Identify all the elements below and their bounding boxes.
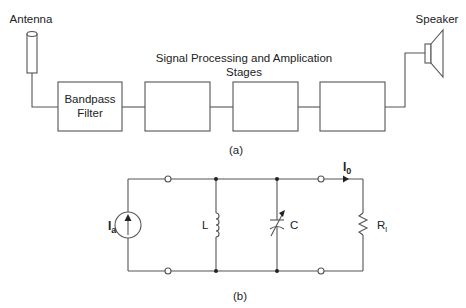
block-1-line2: Filter: [77, 107, 103, 119]
circuit-diagram: Ia L C Rl I0 (b): [108, 160, 387, 302]
antenna-label: Antenna: [10, 13, 53, 25]
terminal-top-right: [318, 176, 324, 182]
stage-block-2: [233, 82, 298, 131]
caption-a: (a): [229, 144, 243, 156]
inductor-label: L: [202, 219, 209, 231]
speaker-wire: [385, 53, 425, 107]
block-diagram: Antenna Bandpass Filter Signal Processin…: [10, 13, 459, 156]
diagram-canvas: Antenna Bandpass Filter Signal Processin…: [0, 0, 466, 308]
speaker-icon: [425, 30, 443, 77]
block-1-line1: Bandpass: [64, 93, 115, 105]
output-current-arrow-icon: [343, 176, 349, 183]
stage-block-3: [320, 82, 385, 131]
stages-label-line1: Signal Processing and Amplication: [156, 52, 332, 64]
terminal-bottom-left: [165, 268, 171, 274]
stages-label-line2: Stages: [226, 66, 262, 78]
caption-b: (b): [233, 290, 247, 302]
stage-block-1: [145, 82, 210, 131]
output-current-label: I0: [343, 160, 351, 176]
resistor-icon: [359, 213, 367, 235]
load-label: Rl: [377, 219, 387, 234]
speaker-label: Speaker: [416, 13, 459, 25]
terminal-top-left: [165, 176, 171, 182]
antenna-wire: [32, 73, 58, 107]
inductor-icon: [216, 213, 219, 237]
current-source-icon: [115, 212, 141, 238]
terminal-bottom-right: [318, 268, 324, 274]
antenna-icon: [27, 32, 37, 74]
capacitor-label: C: [290, 219, 298, 231]
